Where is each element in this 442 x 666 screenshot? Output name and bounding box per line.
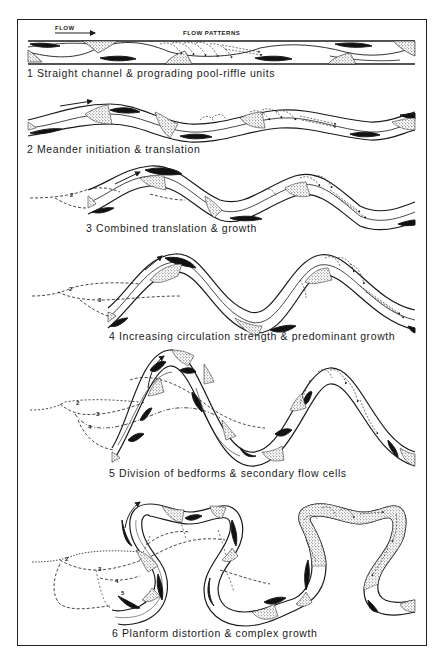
panel-1-caption: 1 Straight channel & prograding pool-rif… xyxy=(27,67,275,79)
panel-3-translation-growth xyxy=(30,166,415,230)
panel-5-marker-2: 2 xyxy=(76,400,80,406)
panel-5-caption: 5 Division of bedforms & secondary flow … xyxy=(109,467,347,479)
panel-6-marker-5: 5 xyxy=(121,590,125,596)
panel-5-marker-3: 3 xyxy=(96,411,100,417)
panel-5-division-bedforms xyxy=(30,350,415,466)
panel-1-straight-channel xyxy=(28,33,415,64)
panel-6-planform-distortion xyxy=(32,502,415,626)
panel-3-caption: 3 Combined translation & growth xyxy=(86,222,257,234)
flow-label: FLOW xyxy=(55,25,75,31)
panel-6-marker-2: 2 xyxy=(65,556,69,562)
panel-4-caption: 4 Increasing circulation strength & pred… xyxy=(109,330,395,342)
panel-2-caption: 2 Meander initiation & translation xyxy=(27,143,200,155)
panel-5-marker-4: 4 xyxy=(88,424,92,430)
panel-6-marker-3: 3 xyxy=(98,566,102,572)
flow-patterns-label: FLOW PATTERNS xyxy=(183,30,240,36)
panel-6-caption: 6 Planform distortion & complex growth xyxy=(112,627,317,639)
panel-4-circulation-growth xyxy=(32,254,415,336)
panel-4-marker-3: 3 xyxy=(98,297,102,303)
panel-4-marker-2: 2 xyxy=(69,286,73,292)
panel-3-marker-2: 2 xyxy=(70,192,74,198)
panel-6-marker-4: 4 xyxy=(115,578,119,584)
panel-2-meander-initiation xyxy=(28,101,415,142)
